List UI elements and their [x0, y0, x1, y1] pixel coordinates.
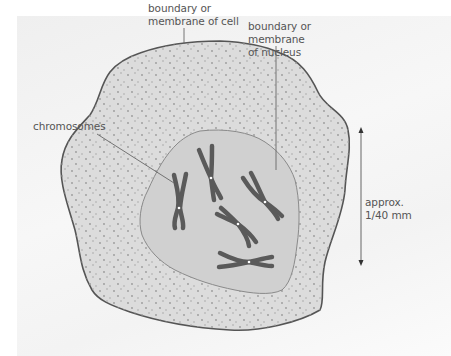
scale-arrow: [359, 127, 364, 266]
nucleus-membrane-label: boundary or membrane of nucleus: [248, 20, 311, 59]
cell-membrane-label: boundary or membrane of cell: [148, 2, 239, 28]
arrow-up-icon: [359, 127, 364, 133]
arrow-down-icon: [359, 260, 364, 266]
cell-diagram: [0, 0, 451, 356]
scale-label: approx. 1/40 mm: [365, 196, 412, 222]
chromosomes-label: chromosomes: [33, 120, 106, 133]
